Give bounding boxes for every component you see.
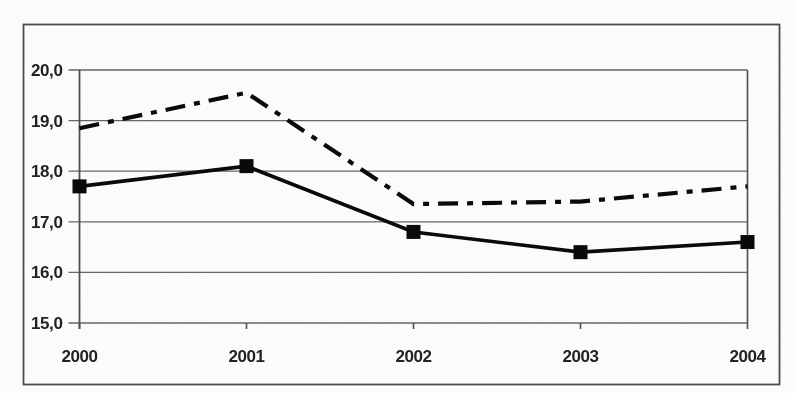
chart-svg: 20,019,018,017,016,015,02000200120022003… (0, 0, 795, 393)
series-marker-lower-solid-line-square-markers-2003 (574, 245, 588, 259)
x-axis-tick-label-0: 2000 (61, 347, 97, 366)
x-axis-tick-label-4: 2004 (729, 347, 766, 366)
series-marker-lower-solid-line-square-markers-2004 (741, 235, 755, 249)
y-axis-tick-label-5: 15,0 (31, 314, 63, 333)
x-axis-tick-label-3: 2003 (562, 347, 598, 366)
x-axis-tick-label-2: 2002 (395, 347, 431, 366)
series-marker-lower-solid-line-square-markers-2000 (73, 179, 87, 193)
scanned-chart-page: 20,019,018,017,016,015,02000200120022003… (0, 0, 795, 393)
y-axis-tick-label-3: 17,0 (31, 213, 63, 232)
y-axis-tick-label-0: 20,0 (31, 61, 63, 80)
series-marker-lower-solid-line-square-markers-2001 (240, 159, 254, 173)
scan-noise-texture (0, 0, 795, 393)
y-axis-tick-label-2: 18,0 (31, 162, 63, 181)
y-axis-tick-label-1: 19,0 (31, 112, 63, 131)
y-axis-tick-label-4: 16,0 (31, 263, 63, 282)
x-axis-tick-label-1: 2001 (228, 347, 264, 366)
series-marker-lower-solid-line-square-markers-2002 (407, 225, 421, 239)
